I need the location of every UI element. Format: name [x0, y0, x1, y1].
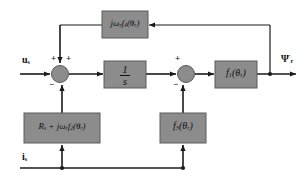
fraction-numerator: 1 — [120, 64, 130, 75]
block-label-f1: f1(θr) — [215, 68, 257, 79]
block-label-f3: f3(θr) — [160, 121, 206, 132]
junction-dot-output-tap — [268, 72, 272, 76]
sign-sum2-plus: + — [175, 54, 180, 63]
sign-sum2-minus: − — [173, 80, 178, 89]
block-label-f3-text: f3(θr) — [173, 120, 193, 131]
block-label-f4: jωrf4(θr) — [102, 19, 148, 29]
input-label-us: us — [22, 55, 30, 66]
block-label-integrator: 1 s — [104, 64, 146, 87]
output-label-psi-r-text: Ψ′r — [281, 53, 293, 64]
output-label-psi-r: Ψ′r — [281, 54, 293, 65]
block-diagram: jωrf4(θr) 1 s f1(θr) Rs + jωrf2(θr) f3(θ… — [0, 0, 307, 182]
input-label-us-text: us — [22, 54, 30, 65]
block-label-rs-jw-f2: Rs + jωrf2(θr) — [24, 122, 100, 132]
diagram-canvas — [0, 0, 307, 182]
summing-junction-2 — [178, 66, 195, 83]
block-label-rs-text: Rs + jωrf2(θr) — [38, 121, 85, 131]
fraction-one-over-s: 1 s — [120, 64, 130, 87]
fraction-denominator: s — [120, 75, 130, 87]
sign-sum1-plus-left: + — [51, 54, 56, 63]
input-label-is: is — [22, 152, 27, 163]
sign-sum1-plus-right: + — [66, 54, 71, 63]
block-label-f1-text: f1(θr) — [226, 67, 246, 78]
sign-sum1-minus: − — [49, 80, 54, 89]
junction-dot-is-left — [60, 166, 64, 170]
junction-dot-is-right — [181, 166, 185, 170]
input-label-is-text: is — [22, 151, 27, 162]
block-label-f4-text: jωrf4(θr) — [111, 18, 140, 28]
